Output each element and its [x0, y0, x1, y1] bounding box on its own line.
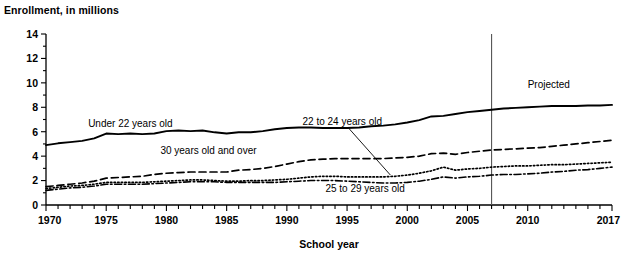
y-tick-label: 8 [32, 101, 38, 113]
x-tick-label: 1980 [155, 214, 179, 226]
x-axis-title: School year [299, 238, 359, 250]
x-tick-label: 1985 [215, 214, 239, 226]
annotation-leader-line [349, 128, 391, 175]
y-tick-label: 6 [32, 126, 38, 138]
x-tick-label: 1970 [38, 214, 62, 226]
annotation-label-0: Under 22 years old [88, 118, 172, 129]
annotation-label-1: 30 years old and over [160, 145, 257, 156]
x-tick-label: 2017 [597, 214, 621, 226]
plot-area: 0246810121419701975198019851990199520002… [0, 0, 621, 260]
annotation-label-2: 22 to 24 years old [303, 116, 383, 127]
x-ticks: 1970197519801985199019952000200520102017 [38, 205, 620, 226]
x-tick-label: 1975 [95, 214, 119, 226]
y-tick-label: 12 [26, 52, 38, 64]
y-ticks: 02468101214 [26, 28, 46, 211]
series-line-1 [46, 140, 612, 186]
chart-figure: Enrollment, in millions 0246810121419701… [0, 0, 621, 260]
x-tick-label: 1995 [335, 214, 359, 226]
x-tick-label: 2000 [396, 214, 420, 226]
x-tick-label: 2005 [456, 214, 480, 226]
y-tick-label: 14 [26, 28, 38, 40]
annotation-label-4: Projected [528, 79, 570, 90]
y-tick-label: 4 [32, 150, 38, 162]
x-tick-label: 2010 [516, 214, 540, 226]
line-chart-svg: 0246810121419701975198019851990199520002… [0, 0, 621, 260]
y-tick-label: 2 [32, 174, 38, 186]
y-tick-label: 10 [26, 77, 38, 89]
annotation-label-3: 25 to 29 years old [325, 183, 405, 194]
x-tick-label: 1990 [275, 214, 299, 226]
y-tick-label: 0 [32, 199, 38, 211]
